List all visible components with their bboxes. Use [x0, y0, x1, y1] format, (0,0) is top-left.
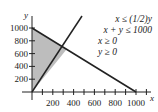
x-tick-label: 400: [67, 98, 81, 108]
x-tick-label: 800: [108, 98, 122, 108]
constraint-2: x + y ≤ 1000: [86, 25, 152, 36]
y-tick-label: 800: [15, 36, 29, 46]
y-tick-label: 1000: [10, 23, 29, 33]
constraint-4: y ≥ 0: [92, 47, 152, 58]
y-tick-label: 600: [15, 49, 29, 59]
constraint-list: x ≤ (1/2)y x + y ≤ 1000 x ≥ 0 y ≥ 0: [92, 14, 152, 58]
y-tick-label: 200: [15, 74, 29, 84]
constraint-3: x ≥ 0: [92, 36, 152, 47]
y-tick-label: 400: [15, 61, 29, 71]
x-tick-label: 200: [46, 98, 60, 108]
y-axis-label: y: [23, 10, 28, 20]
constraint-1: x ≤ (1/2)y: [92, 14, 152, 25]
x-tick-label: 1000: [127, 98, 146, 108]
feasible-region: [32, 28, 67, 92]
x-tick-label: 600: [88, 98, 102, 108]
x-axis-label: x: [149, 93, 154, 103]
